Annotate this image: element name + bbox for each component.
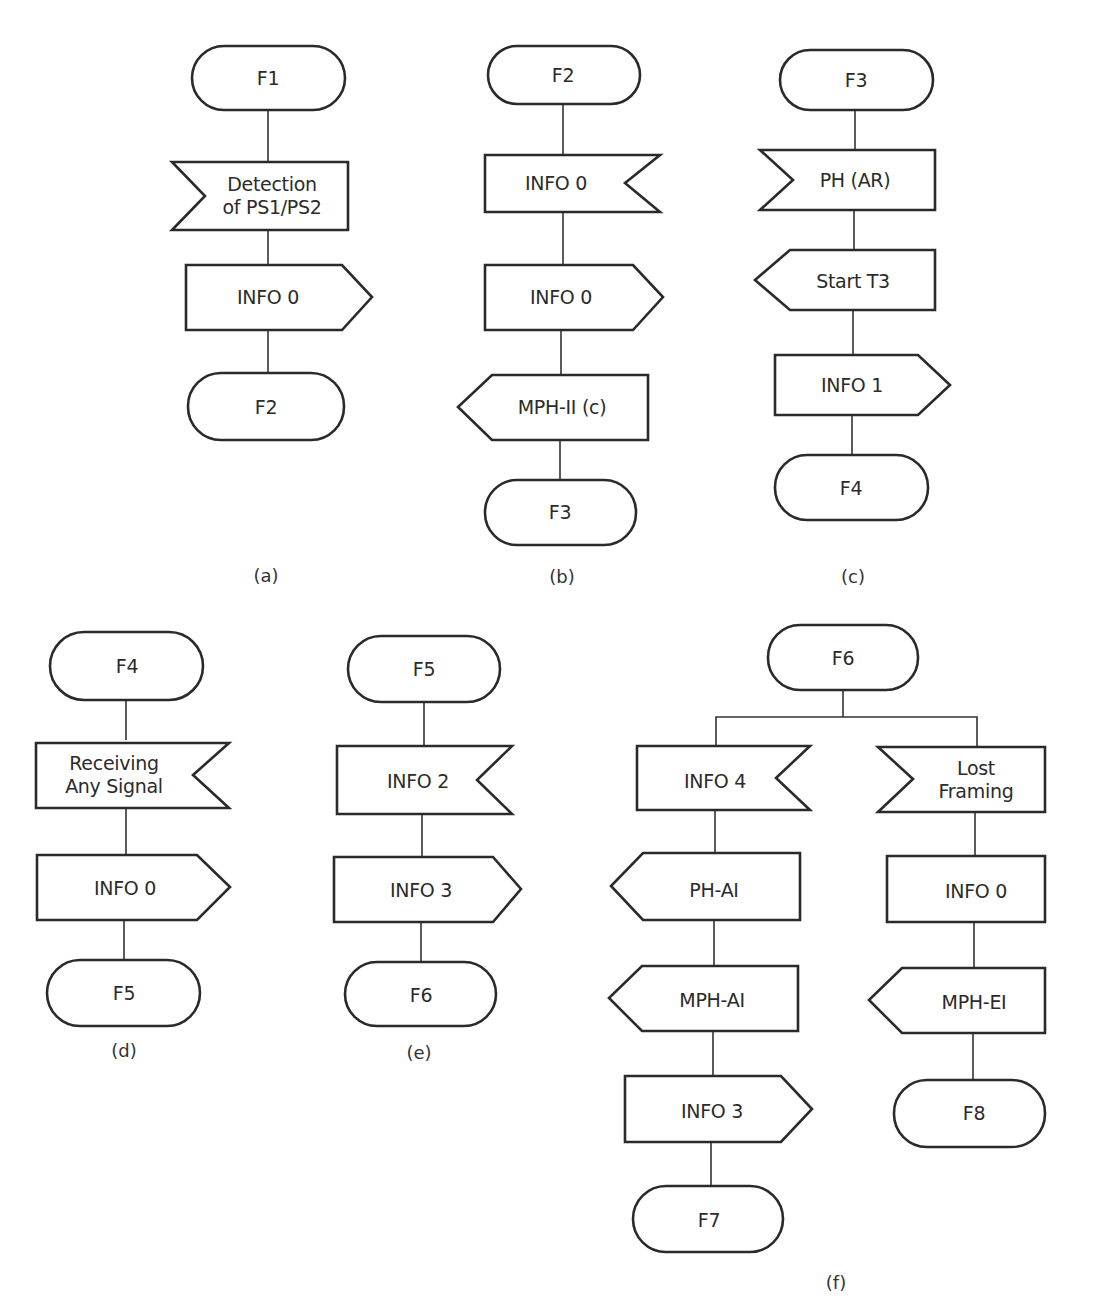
node-label-info0-receive: INFO 0 <box>525 172 587 195</box>
node-label-mph-ii: MPH-II (c) <box>518 396 607 419</box>
node-label-info0-send: INFO 0 <box>530 286 592 309</box>
panel-caption-a: (a) <box>253 565 278 586</box>
node-label-f4: F4 <box>116 655 138 678</box>
node-label-f4: F4 <box>840 477 862 500</box>
node-label-ph-ai: PH-AI <box>689 879 738 902</box>
node-label-info0: INFO 0 <box>237 286 299 309</box>
node-label-f6: F6 <box>410 984 432 1007</box>
node-label-info2: INFO 2 <box>387 770 449 793</box>
node-label-info3: INFO 3 <box>390 879 452 902</box>
node-label-detection: Detection of PS1/PS2 <box>223 173 322 219</box>
node-label-f5: F5 <box>113 982 135 1005</box>
node-label-f5: F5 <box>413 658 435 681</box>
panel-a <box>172 46 372 440</box>
panel-caption-c: (c) <box>841 566 865 587</box>
node-label-f8: F8 <box>963 1102 985 1125</box>
node-label-info4: INFO 4 <box>684 770 746 793</box>
node-label-f2: F2 <box>255 396 277 419</box>
node-label-f1: F1 <box>257 67 279 90</box>
node-label-f6-root: F6 <box>832 647 854 670</box>
node-label-mph-ai: MPH-AI <box>679 989 744 1012</box>
node-label-f3: F3 <box>845 69 867 92</box>
panel-caption-d: (d) <box>111 1040 136 1061</box>
panel-caption-b: (b) <box>549 566 574 587</box>
panel-caption-e: (e) <box>406 1042 431 1063</box>
panel-d <box>36 632 230 1026</box>
node-label-receiving-any-signal: Receiving Any Signal <box>65 752 163 798</box>
node-label-lost-framing: Lost Framing <box>939 757 1014 803</box>
panel-f <box>609 625 1045 1252</box>
flowchart-canvas <box>0 0 1119 1315</box>
node-label-mph-ei: MPH-EI <box>942 991 1007 1014</box>
node-label-f7: F7 <box>698 1209 720 1232</box>
node-label-ph-ar: PH (AR) <box>820 169 891 192</box>
node-label-f2: F2 <box>552 64 574 87</box>
node-label-start-t3: Start T3 <box>816 270 890 293</box>
branch-connector <box>716 717 977 747</box>
node-label-info0: INFO 0 <box>945 880 1007 903</box>
node-label-info3: INFO 3 <box>681 1100 743 1123</box>
panel-caption-f: (f) <box>826 1272 846 1293</box>
node-label-f3: F3 <box>549 501 571 524</box>
panel-e <box>334 636 521 1026</box>
node-label-info1: INFO 1 <box>821 374 883 397</box>
node-label-info0: INFO 0 <box>94 877 156 900</box>
